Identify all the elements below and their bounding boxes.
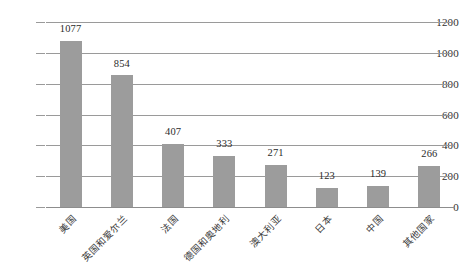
bar-uk-ireland[interactable]	[111, 75, 133, 207]
y-tick-dash-1200	[36, 22, 45, 23]
x-tick-label-usa: 美国	[56, 213, 78, 235]
bar-slot-other-countries: 266	[404, 22, 455, 207]
x-tick-label-uk-ireland: 英国和爱尔兰	[79, 213, 129, 263]
bar-value-label: 1077	[60, 23, 82, 34]
bar-value-label: 139	[370, 168, 386, 179]
y-tick-dash-400	[36, 145, 45, 146]
bar-slot-usa: 1077	[45, 22, 96, 207]
bar-japan[interactable]	[316, 188, 338, 207]
y-tick-dash-200	[36, 176, 45, 177]
bars-layer: 1077 854 407 333 271 123 139 266	[45, 22, 455, 207]
x-tick-label-france: 法国	[159, 213, 181, 235]
bar-australia[interactable]	[265, 165, 287, 207]
bar-value-label: 407	[165, 126, 181, 137]
y-tick-dash-1000	[36, 53, 45, 54]
bar-value-label: 333	[216, 138, 232, 149]
bar-usa[interactable]	[60, 41, 82, 207]
bar-slot-japan: 123	[301, 22, 352, 207]
bar-value-label: 271	[267, 147, 283, 158]
x-tick-label-japan: 日本	[313, 213, 335, 235]
x-tick-label-other-countries: 其他国家	[401, 213, 437, 249]
x-tick-label-australia: 澳大利亚	[247, 213, 283, 249]
bar-chart-figure: 1200 1000 800 600 400 200 0 1077 854 407	[0, 0, 466, 274]
y-tick-dash-800	[36, 84, 45, 85]
bar-value-label: 266	[421, 148, 437, 159]
y-tick-dash-0	[36, 207, 45, 208]
bar-slot-germany-austria: 333	[199, 22, 250, 207]
bar-slot-france: 407	[148, 22, 199, 207]
bar-slot-china: 139	[353, 22, 404, 207]
x-tick-label-germany-austria: 德国和奥地利	[182, 213, 232, 263]
bar-slot-australia: 271	[250, 22, 301, 207]
bar-other-countries[interactable]	[418, 166, 440, 207]
bar-france[interactable]	[162, 144, 184, 207]
bar-value-label: 123	[319, 170, 335, 181]
x-axis-labels: 美国 英国和爱尔兰 法国 德国和奥地利 澳大利亚 日本 中国 其他国家	[45, 209, 455, 274]
gridline-baseline-0	[45, 207, 455, 208]
bar-china[interactable]	[367, 186, 389, 207]
bar-slot-uk-ireland: 854	[96, 22, 147, 207]
bar-value-label: 854	[114, 58, 130, 69]
x-tick-label-china: 中国	[364, 213, 386, 235]
bar-germany-austria[interactable]	[213, 156, 235, 207]
y-tick-dash-600	[36, 115, 45, 116]
